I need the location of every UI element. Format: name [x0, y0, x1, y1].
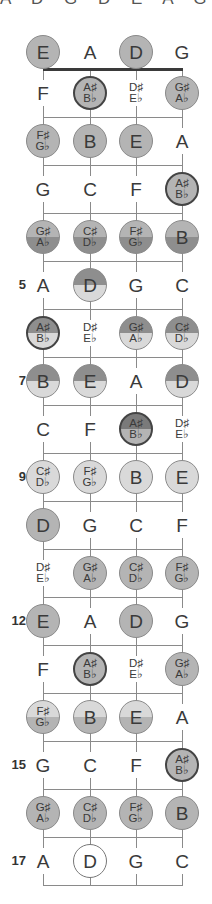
- note-marker: D: [165, 364, 199, 398]
- fret-number-label: 15: [4, 757, 26, 772]
- note-marker: E: [26, 604, 60, 638]
- note-marker: F♯G♭: [119, 220, 153, 254]
- enharmonic-note-label: G♯A♭: [129, 322, 144, 344]
- note-marker: A: [165, 704, 199, 730]
- enharmonic-note-label: D♯E♭: [83, 322, 97, 344]
- note-label: B: [84, 132, 97, 151]
- note-label: G: [83, 516, 98, 535]
- note-label: G: [36, 180, 51, 199]
- note-label: F: [176, 516, 188, 535]
- enharmonic-note-label: A♯B♭: [83, 82, 97, 104]
- enharmonic-note-label: A♯B♭: [175, 754, 189, 776]
- fret-number-label: 7: [4, 373, 26, 388]
- enharmonic-note-label: F♯G♭: [36, 706, 51, 728]
- note-marker: C♯D♭: [119, 556, 153, 590]
- note-marker: C♯D♭: [73, 220, 107, 254]
- note-label: C: [175, 276, 189, 295]
- note-marker: C: [165, 272, 199, 298]
- enharmonic-note-label: A♯B♭: [83, 658, 97, 680]
- fret-line: [43, 117, 183, 118]
- note-marker: A: [26, 848, 60, 874]
- note-marker: G♯A♭: [119, 316, 153, 350]
- note-label: E: [37, 612, 50, 631]
- note-marker: D♯E♭: [165, 416, 199, 442]
- note-label: A: [84, 43, 97, 62]
- note-marker: F: [73, 416, 107, 442]
- note-label: E: [130, 132, 143, 151]
- enharmonic-note-label: G♯A♭: [36, 226, 51, 248]
- note-label: C: [83, 180, 97, 199]
- note-marker: A: [165, 128, 199, 154]
- enharmonic-note-label: D♯E♭: [129, 658, 143, 680]
- note-marker: F♯G♭: [73, 460, 107, 494]
- note-label: B: [84, 708, 97, 727]
- note-marker: C: [73, 176, 107, 202]
- note-label: A: [176, 132, 189, 151]
- enharmonic-note-label: G♯A♭: [36, 802, 51, 824]
- note-label: F: [37, 660, 49, 679]
- note-label: C: [175, 852, 189, 871]
- note-label: B: [37, 372, 50, 391]
- fret-line: [43, 213, 183, 214]
- fret-line: [43, 165, 183, 166]
- note-label: G: [175, 43, 190, 62]
- note-marker: C: [119, 512, 153, 538]
- note-label: G: [129, 276, 144, 295]
- fret-line: [43, 693, 183, 694]
- fret-line: [43, 261, 183, 262]
- fret-line: [43, 405, 183, 406]
- note-label: D: [36, 516, 50, 535]
- note-marker: D♯E♭: [119, 656, 153, 682]
- enharmonic-note-label: F♯G♭: [175, 562, 190, 584]
- note-marker: C: [73, 752, 107, 778]
- note-marker: D: [119, 604, 153, 638]
- note-label: C: [36, 420, 50, 439]
- note-marker: B: [26, 364, 60, 398]
- note-marker: G♯A♭: [26, 220, 60, 254]
- note-marker: C♯D♭: [73, 796, 107, 830]
- note-marker: A♯B♭: [165, 172, 199, 206]
- note-label: E: [176, 468, 189, 487]
- note-marker: A♯B♭: [73, 652, 107, 686]
- note-marker: G♯A♭: [73, 556, 107, 590]
- enharmonic-note-label: F♯G♭: [83, 466, 98, 488]
- enharmonic-note-label: G♯A♭: [83, 562, 98, 584]
- note-marker: G♯A♭: [165, 76, 199, 110]
- note-marker: B: [165, 796, 199, 830]
- note-label: A: [176, 708, 189, 727]
- fret-line: [43, 789, 183, 790]
- note-label: F: [37, 84, 49, 103]
- note-label: D: [83, 852, 97, 871]
- enharmonic-note-label: A♯B♭: [129, 418, 143, 440]
- enharmonic-note-label: A♯B♭: [175, 178, 189, 200]
- note-label: B: [176, 228, 189, 247]
- note-marker: G♯A♭: [26, 796, 60, 830]
- note-marker: F♯G♭: [165, 556, 199, 590]
- note-marker: F♯G♭: [26, 700, 60, 734]
- fret-line: [43, 309, 183, 310]
- enharmonic-note-label: C♯D♭: [83, 226, 97, 248]
- note-label: A: [37, 852, 50, 871]
- nut: [43, 68, 183, 71]
- note-marker: A♯B♭: [165, 748, 199, 782]
- note-marker: D: [73, 268, 107, 302]
- note-label: D: [83, 276, 97, 295]
- note-marker: B: [73, 700, 107, 734]
- note-marker: E: [26, 35, 60, 69]
- note-label: G: [36, 756, 51, 775]
- note-marker: G: [26, 752, 60, 778]
- note-label: A: [37, 276, 50, 295]
- note-marker: A: [73, 608, 107, 634]
- fret-line: [43, 885, 183, 886]
- fret-number-label: 17: [4, 853, 26, 868]
- note-marker: F: [26, 80, 60, 106]
- note-marker: D: [26, 508, 60, 542]
- enharmonic-note-label: D♯E♭: [36, 562, 50, 584]
- note-marker: F: [26, 656, 60, 682]
- fret-number-label: 5: [4, 277, 26, 292]
- note-marker: E: [119, 124, 153, 158]
- fret-number-label: 9: [4, 469, 26, 484]
- note-marker: F: [119, 752, 153, 778]
- note-marker: A: [119, 368, 153, 394]
- note-label: E: [130, 708, 143, 727]
